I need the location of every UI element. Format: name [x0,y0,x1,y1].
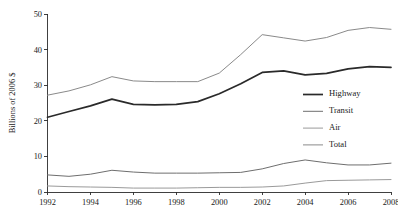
x-tick-label: 1994 [82,198,100,207]
x-tick-label: 2000 [211,198,228,207]
legend-label-air: Air [329,122,341,132]
x-tick-label: 2004 [297,198,315,207]
y-tick-label: 50 [34,10,42,19]
legend-label-transit: Transit [329,105,354,115]
legend-label-total: Total [329,139,347,149]
x-tick-label: 1996 [125,198,142,207]
y-tick-label: 40 [34,46,42,55]
y-tick-label: 0 [38,188,42,197]
series-line-transit [48,160,392,176]
line-chart: Billions of 2006 $ 01020304050 199219941… [0,0,398,224]
x-tick-label: 1998 [168,198,185,207]
y-axis-ticks: 01020304050 [34,10,48,197]
y-axis-title: Billions of 2006 $ [8,73,17,134]
chart-legend: HighwayTransitAirTotal [303,88,361,148]
chart-figure: Billions of 2006 $ 01020304050 199219941… [0,0,398,224]
x-tick-label: 2008 [383,198,398,207]
legend-label-highway: Highway [329,88,361,98]
y-axis-title-label: Billions of 2006 $ [8,73,17,134]
x-tick-label: 2006 [340,198,357,207]
x-tick-label: 2002 [254,198,271,207]
y-tick-label: 30 [34,81,42,90]
x-axis-ticks: 199219941996199820002002200420062008 [39,192,398,207]
x-tick-label: 1992 [39,198,56,207]
series-line-air [48,180,392,189]
y-tick-label: 20 [34,117,42,126]
y-tick-label: 10 [34,152,42,161]
series-line-total [48,28,392,96]
